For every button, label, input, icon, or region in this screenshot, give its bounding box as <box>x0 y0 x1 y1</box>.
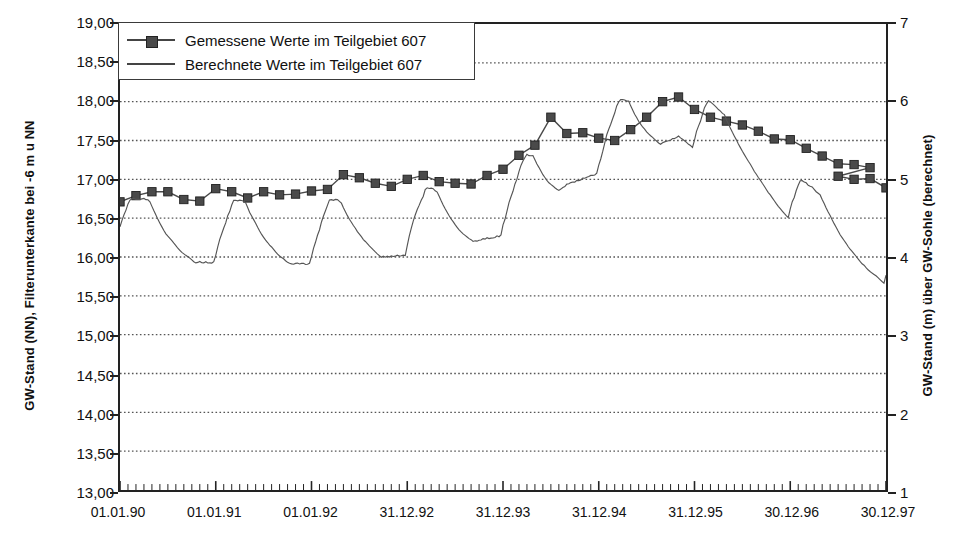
x-tick-label: 30.12.97 <box>861 504 916 520</box>
y-tick-label-left: 17,50 <box>62 131 114 148</box>
y-tick-mark-left <box>110 257 118 259</box>
y-tick-label-left: 16,00 <box>62 249 114 266</box>
y-tick-mark-right <box>888 335 896 337</box>
x-tick-label: 31.12.92 <box>380 504 435 520</box>
y-tick-mark-left <box>110 179 118 181</box>
x-tick-label: 31.12.95 <box>668 504 723 520</box>
y-tick-label-right: 4 <box>900 249 924 266</box>
x-tick-label: 01.01.90 <box>91 504 146 520</box>
y-tick-label-left: 19,00 <box>62 14 114 31</box>
y-tick-label-left: 15,00 <box>62 327 114 344</box>
y-tick-mark-left <box>110 492 118 494</box>
y-tick-mark-right <box>888 100 896 102</box>
y-tick-label-left: 16,50 <box>62 209 114 226</box>
y-tick-label-right: 2 <box>900 405 924 422</box>
y-tick-label-left: 14,00 <box>62 405 114 422</box>
y-tick-mark-left <box>110 414 118 416</box>
y-tick-mark-left <box>110 22 118 24</box>
chart-root: GW-Stand (NN), Filterunterkante bei -6 m… <box>0 0 956 549</box>
y-tick-mark-left <box>110 140 118 142</box>
y-tick-mark-left <box>110 61 118 63</box>
x-tick-label: 31.12.94 <box>572 504 627 520</box>
y-tick-label-left: 17,00 <box>62 170 114 187</box>
x-tick-label: 01.01.92 <box>283 504 338 520</box>
y-tick-mark-left <box>110 296 118 298</box>
y-tick-mark-left <box>110 375 118 377</box>
y-tick-mark-left <box>110 100 118 102</box>
x-tick-label: 30.12.96 <box>765 504 820 520</box>
line-marker-icon <box>127 57 175 71</box>
y-tick-label-left: 13,00 <box>62 484 114 501</box>
y-tick-mark-right <box>888 492 896 494</box>
legend-item-measured: Gemessene Werte im Teilgebiet 607 <box>119 28 474 52</box>
y-tick-mark-right <box>888 22 896 24</box>
y-tick-label-left: 18,50 <box>62 53 114 70</box>
y-tick-mark-right <box>888 257 896 259</box>
legend-item-computed: Berechnete Werte im Teilgebiet 607 <box>119 52 474 76</box>
y-tick-label-left: 18,00 <box>62 92 114 109</box>
y-tick-label-left: 13,50 <box>62 444 114 461</box>
plot-area <box>118 22 888 492</box>
y-tick-mark-left <box>110 453 118 455</box>
legend-label-computed: Berechnete Werte im Teilgebiet 607 <box>175 56 422 73</box>
square-marker-icon <box>127 33 175 47</box>
y-tick-label-right: 6 <box>900 92 924 109</box>
y-tick-mark-right <box>888 414 896 416</box>
y-tick-label-left: 15,50 <box>62 288 114 305</box>
legend-label-measured: Gemessene Werte im Teilgebiet 607 <box>175 32 426 49</box>
y-tick-label-right: 3 <box>900 327 924 344</box>
y-tick-label-right: 7 <box>900 14 924 31</box>
y-tick-label-right: 5 <box>900 170 924 187</box>
y-tick-mark-left <box>110 218 118 220</box>
x-tick-label: 01.01.91 <box>187 504 242 520</box>
y-tick-mark-right <box>888 179 896 181</box>
y-axis-left-title: GW-Stand (NN), Filterunterkante bei -6 m… <box>22 51 37 481</box>
y-tick-label-left: 14,50 <box>62 366 114 383</box>
y-tick-label-right: 1 <box>900 484 924 501</box>
legend: Gemessene Werte im Teilgebiet 607 Berech… <box>118 22 475 80</box>
data-series <box>120 24 886 490</box>
y-tick-mark-left <box>110 335 118 337</box>
x-tick-label: 31.12.93 <box>476 504 531 520</box>
